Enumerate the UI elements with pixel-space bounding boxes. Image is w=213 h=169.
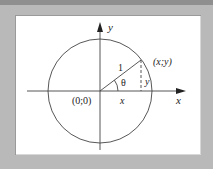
- x-projection-label: x: [119, 95, 125, 106]
- y-axis-arrow-icon: [97, 22, 103, 32]
- y-projection-label: y: [144, 76, 150, 87]
- angle-label: θ: [121, 77, 126, 88]
- x-axis-label: x: [175, 94, 181, 106]
- radius-label: 1: [118, 62, 123, 73]
- angle-arc: [114, 80, 118, 91]
- origin-label: (0;0): [72, 95, 91, 107]
- unit-circle-diagram: y x (0;0) (x;y) 1 θ x y: [0, 0, 213, 169]
- point-label: (x;y): [153, 56, 173, 68]
- y-axis-label: y: [107, 21, 113, 33]
